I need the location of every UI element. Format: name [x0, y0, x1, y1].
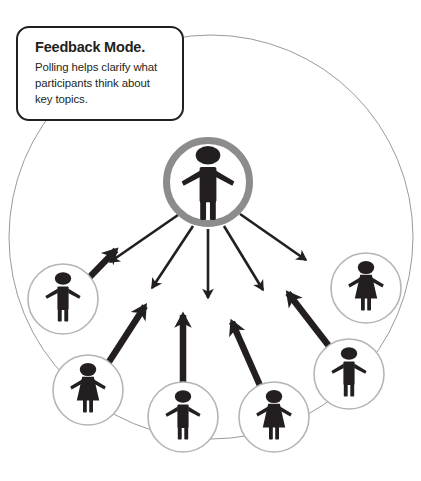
callout-body: Polling helps clarify what participants … — [35, 59, 169, 108]
callout-box: Feedback Mode. Polling helps clarify wha… — [16, 26, 184, 121]
diagram-canvas: Feedback Mode. Polling helps clarify wha… — [0, 0, 421, 481]
inbound-arrow-from-right-lower — [288, 293, 332, 350]
inbound-arrow-from-left-lower — [105, 306, 145, 368]
presenter-node-center[interactable] — [167, 141, 250, 224]
callout-title: Feedback Mode. — [35, 39, 169, 56]
participant-node-left-lower[interactable] — [53, 355, 123, 425]
participant-node-bottom-right[interactable] — [239, 382, 309, 452]
outbound-arrow-4 — [224, 226, 263, 290]
outbound-arrow-2 — [152, 226, 193, 288]
participant-node-bottom-left[interactable] — [148, 382, 218, 452]
inbound-arrow-from-bottom-right — [232, 322, 262, 390]
participant-node-right-upper[interactable] — [331, 253, 401, 323]
participant-node-right-lower[interactable] — [314, 339, 384, 409]
outbound-arrow-1 — [110, 215, 178, 262]
participant-node-left-upper[interactable] — [28, 264, 98, 334]
outbound-arrow-5 — [240, 214, 306, 260]
